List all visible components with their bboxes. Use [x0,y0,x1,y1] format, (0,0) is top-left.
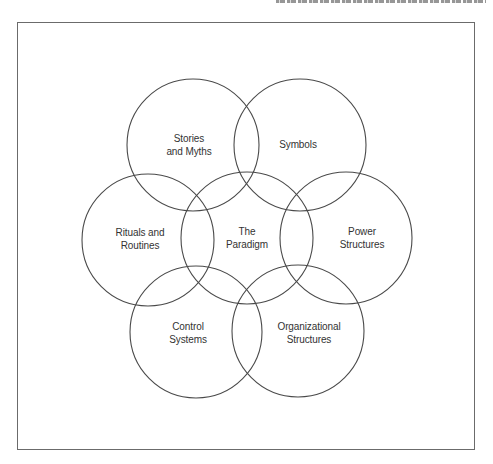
label-control: Control Systems [169,321,207,346]
label-organizational: Organizational Structures [277,321,340,346]
label-rituals: Rituals and Routines [116,227,165,252]
label-stories: Stories and Myths [166,133,211,158]
label-paradigm: The Paradigm [226,226,268,251]
label-symbols: Symbols [279,139,317,152]
label-power: Power Structures [340,226,385,251]
